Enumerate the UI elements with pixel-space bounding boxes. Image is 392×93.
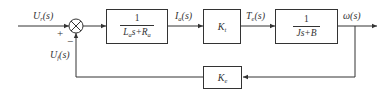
gain-sub: e [224,77,227,84]
armature-transfer-function: 1 Las+Ra [123,13,151,40]
input-signal-label: Ur(s) [33,11,53,24]
plus-sign: + [57,28,63,39]
summing-junction-icon [69,19,83,33]
numerator: 1 [135,13,140,25]
den-R-sub: a [148,31,151,38]
feedback-gain-block: Ke [203,66,242,89]
denominator: Las+Ra [123,26,151,40]
label-arg: (s) [43,10,54,21]
den-mid: s+ [132,27,142,37]
gain-sub: t [224,26,226,33]
feedback-gain: Ke [218,72,228,84]
numerator: 1 [304,14,309,26]
mechanical-transfer-function: 1 Js+B [296,14,316,39]
mechanical-block: 1 Js+B [275,9,338,44]
torque-gain: Kt [218,21,226,33]
denominator: Js+B [296,27,316,39]
label-arg: (s) [254,10,265,21]
torque-signal-label: Te(s) [246,11,265,24]
label-arg: (s) [182,10,193,21]
feedback-signal-label: Uf(s) [50,50,70,63]
current-signal-label: Ia(s) [175,11,192,24]
minus-sign: − [67,36,73,47]
torque-gain-block: Kt [203,9,241,44]
label-arg: (s) [59,49,70,60]
armature-block: 1 Las+Ra [106,9,168,44]
output-signal-label: ω(s) [343,11,361,21]
